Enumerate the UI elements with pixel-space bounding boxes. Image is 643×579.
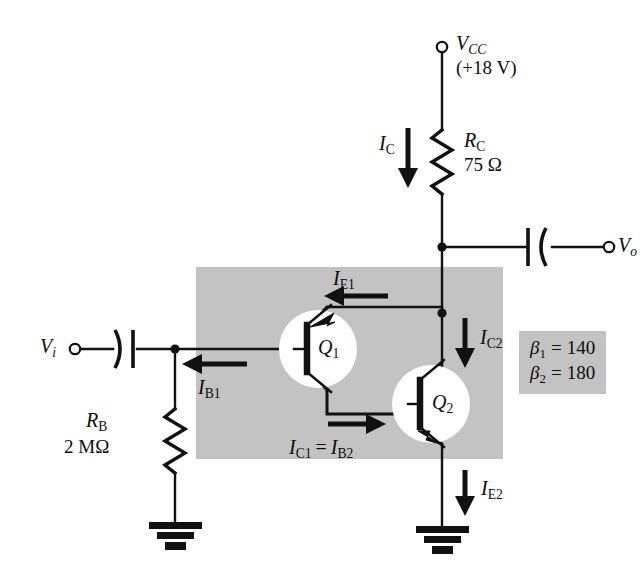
label-current-ic1-ib2: IC1=IB2 bbox=[289, 437, 353, 461]
terminal-vi[interactable] bbox=[70, 344, 80, 354]
capacitor-cout bbox=[528, 228, 546, 266]
label-rc: RC bbox=[464, 130, 485, 154]
beta-parameters-box: β1=140 β2=180 bbox=[519, 331, 606, 394]
label-rb: RB bbox=[86, 410, 107, 434]
terminal-vcc[interactable] bbox=[437, 42, 447, 52]
q2-envelope-circle bbox=[392, 365, 470, 443]
capacitor-cin bbox=[115, 330, 133, 368]
label-current-ic2: IC2 bbox=[480, 327, 503, 351]
label-vo: Vo bbox=[618, 235, 637, 259]
junction-dot-emitter-node bbox=[437, 308, 446, 317]
beta2-line: β2=180 bbox=[530, 362, 595, 387]
label-q1: Q1 bbox=[318, 337, 339, 361]
resistor-rc-symbol bbox=[432, 130, 452, 194]
resistor-rb-symbol bbox=[165, 409, 185, 473]
label-rb-value: 2 MΩ bbox=[64, 437, 109, 456]
circuit-figure: VCC (+18 V) RC 75 Ω IC Vo Vi RB 2 MΩ IE1… bbox=[0, 0, 643, 579]
label-current-ic: IC bbox=[379, 133, 395, 157]
label-vcc-value: (+18 V) bbox=[456, 58, 517, 77]
ground-symbol-left bbox=[149, 522, 202, 550]
label-q2: Q2 bbox=[432, 392, 453, 416]
label-current-ie1: IE1 bbox=[333, 268, 355, 292]
schematic-canvas bbox=[0, 0, 643, 579]
label-current-ib1: IB1 bbox=[198, 377, 221, 401]
terminal-vo[interactable] bbox=[604, 242, 614, 252]
label-vi: Vi bbox=[40, 336, 56, 360]
current-arrow-ic bbox=[398, 128, 418, 188]
junction-dot-output-node bbox=[437, 242, 446, 251]
label-rc-value: 75 Ω bbox=[464, 155, 502, 174]
beta1-line: β1=140 bbox=[530, 337, 595, 362]
current-arrow-ie2 bbox=[455, 470, 475, 516]
junction-dot-base-node bbox=[170, 344, 179, 353]
label-vcc: VCC bbox=[456, 33, 486, 57]
ground-symbol-right bbox=[416, 526, 469, 554]
label-current-ie2: IE2 bbox=[481, 478, 503, 502]
